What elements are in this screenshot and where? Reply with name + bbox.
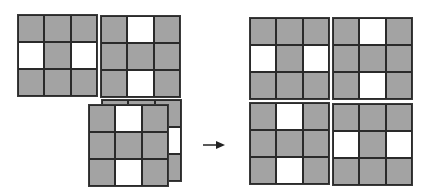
filled-cell — [18, 15, 44, 42]
empty-cell — [18, 42, 44, 69]
filled-cell — [101, 43, 127, 70]
empty-cell — [359, 18, 385, 45]
empty-cell — [303, 45, 329, 72]
empty-cell — [127, 70, 153, 97]
filled-cell — [127, 43, 153, 70]
filled-cell — [386, 158, 412, 185]
filled-cell — [154, 16, 180, 43]
empty-cell — [359, 72, 385, 99]
filled-cell — [44, 42, 70, 69]
empty-cell — [386, 131, 412, 158]
filled-cell — [250, 157, 276, 184]
tile-e — [332, 17, 413, 100]
filled-cell — [276, 130, 302, 157]
filled-cell — [333, 158, 359, 185]
filled-cell — [250, 72, 276, 99]
filled-cell — [142, 159, 168, 186]
empty-cell — [276, 157, 302, 184]
filled-cell — [142, 132, 168, 159]
filled-cell — [115, 132, 141, 159]
empty-cell — [333, 131, 359, 158]
filled-cell — [154, 70, 180, 97]
filled-cell — [142, 105, 168, 132]
filled-cell — [303, 130, 329, 157]
filled-cell — [44, 69, 70, 96]
filled-cell — [359, 131, 385, 158]
filled-cell — [359, 104, 385, 131]
filled-cell — [101, 70, 127, 97]
filled-cell — [386, 104, 412, 131]
filled-cell — [250, 103, 276, 130]
filled-cell — [333, 45, 359, 72]
filled-cell — [154, 43, 180, 70]
filled-cell — [276, 45, 302, 72]
filled-cell — [89, 105, 115, 132]
tile-a — [17, 14, 98, 97]
filled-cell — [303, 157, 329, 184]
tile-d — [249, 17, 330, 100]
empty-cell — [250, 45, 276, 72]
filled-cell — [333, 104, 359, 131]
tile-g — [332, 103, 413, 186]
filled-cell — [359, 158, 385, 185]
tile-c — [88, 104, 169, 187]
tile-f — [249, 102, 330, 185]
empty-cell — [115, 105, 141, 132]
filled-cell — [18, 69, 44, 96]
filled-cell — [386, 45, 412, 72]
filled-cell — [276, 18, 302, 45]
tile-b — [100, 15, 181, 98]
filled-cell — [71, 15, 97, 42]
filled-cell — [303, 18, 329, 45]
filled-cell — [89, 159, 115, 186]
filled-cell — [71, 69, 97, 96]
filled-cell — [101, 16, 127, 43]
arrow-right-icon — [203, 140, 225, 150]
filled-cell — [303, 72, 329, 99]
filled-cell — [276, 72, 302, 99]
filled-cell — [359, 45, 385, 72]
filled-cell — [386, 18, 412, 45]
filled-cell — [303, 103, 329, 130]
filled-cell — [89, 132, 115, 159]
filled-cell — [333, 18, 359, 45]
empty-cell — [115, 159, 141, 186]
empty-cell — [71, 42, 97, 69]
empty-cell — [276, 103, 302, 130]
filled-cell — [250, 18, 276, 45]
filled-cell — [250, 130, 276, 157]
filled-cell — [44, 15, 70, 42]
filled-cell — [386, 72, 412, 99]
empty-cell — [127, 16, 153, 43]
filled-cell — [333, 72, 359, 99]
